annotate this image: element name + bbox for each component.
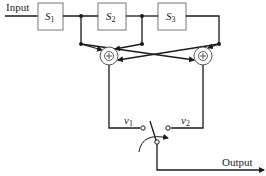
block-s1-label: S1 xyxy=(45,11,55,24)
summer-right xyxy=(194,47,212,65)
s3-output-line xyxy=(186,16,219,44)
block-s3-label: S3 xyxy=(166,11,176,24)
output-label: Output xyxy=(222,157,253,168)
arrow-s1-to-sum-right xyxy=(81,44,194,60)
selector-switch xyxy=(139,121,170,152)
v1-label: v1 xyxy=(124,115,133,128)
arrow-s2-to-sum-left xyxy=(115,44,142,49)
block-diagram xyxy=(0,0,266,176)
summer-left xyxy=(100,47,118,65)
junction-dot xyxy=(79,14,83,18)
block-s2-label: S2 xyxy=(106,11,116,24)
input-label: Input xyxy=(6,2,29,13)
v2-label: v2 xyxy=(181,115,190,128)
junction-dot xyxy=(140,14,144,18)
